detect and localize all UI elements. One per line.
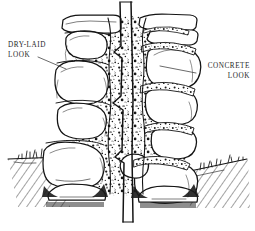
wall-cross-section-drawing (0, 0, 255, 231)
label-concrete-line2: LOOK (208, 72, 250, 82)
label-concrete-line1: CONCRETE (208, 62, 250, 72)
stone-left-2 (66, 31, 108, 59)
stone-left-cap (62, 15, 121, 33)
label-concrete-look: CONCRETE LOOK (208, 62, 250, 81)
figure-stone-wall-comparison: DRY-LAID LOOK CONCRETE LOOK (0, 0, 255, 231)
label-dry-laid-look: DRY-LAID LOOK (8, 41, 46, 60)
label-dry-laid-line2: LOOK (8, 51, 46, 61)
stone-left-4 (57, 103, 106, 139)
label-dry-laid-line1: DRY-LAID (8, 41, 46, 51)
